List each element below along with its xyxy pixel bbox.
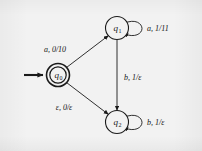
- transition-edge-q0-q2: [67, 83, 109, 115]
- transition-label-q2-self: b, 1/ε: [147, 118, 165, 127]
- transition-label-q1-self: a, 1/11: [147, 24, 169, 33]
- state-node-q1[interactable]: q 1: [106, 17, 129, 40]
- transition-label-q1-q2: b, 1/ε: [124, 73, 142, 82]
- transition-label-q0-q2: ε, 0/ε: [56, 103, 73, 112]
- state-subscript-q1: 1: [119, 28, 122, 34]
- automaton-canvas: q 0 q 1 q 2 a, 0/10 ε, 0/ε b, 1/ε a, 1/1…: [0, 0, 202, 151]
- state-subscript-q2: 2: [119, 122, 122, 128]
- state-subscript-q0: 0: [60, 75, 63, 81]
- automaton-figure: q 0 q 1 q 2 a, 0/10 ε, 0/ε b, 1/ε a, 1/1…: [0, 0, 202, 151]
- transition-label-q0-q1: a, 0/10: [44, 45, 66, 54]
- state-node-q2[interactable]: q 2: [106, 111, 129, 134]
- state-node-q0[interactable]: q 0: [47, 64, 70, 87]
- transition-edge-q0-q1: [67, 36, 109, 68]
